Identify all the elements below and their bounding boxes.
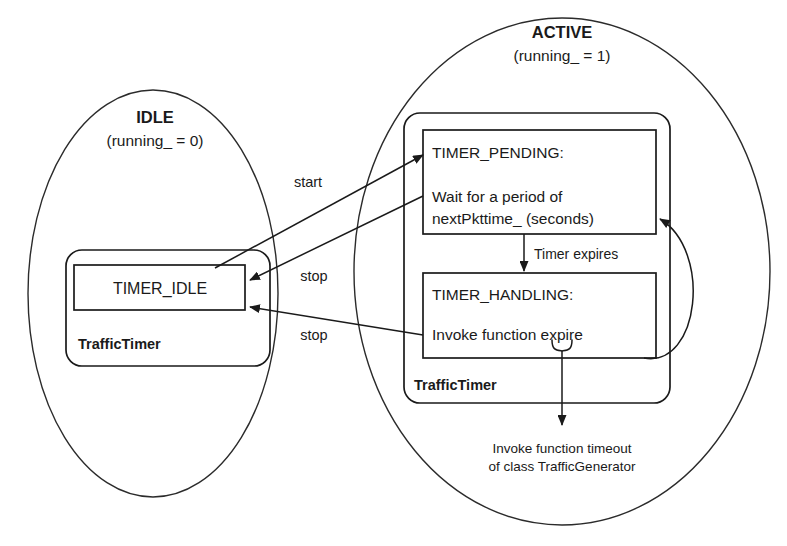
idle-region-title: IDLE: [136, 108, 174, 126]
state-timer-pending-label: TIMER_PENDING:: [432, 144, 564, 161]
state-timer-handling-line1: Invoke function expire: [432, 326, 583, 343]
state-timer-pending-line2: nextPkttime_ (seconds): [432, 210, 594, 227]
callout-line-1: Invoke function timeout: [493, 441, 632, 456]
active-region-title: ACTIVE: [532, 23, 593, 41]
active-class-label: TrafficTimer: [414, 377, 497, 393]
callout-line-2: of class TrafficGenerator: [489, 459, 636, 474]
idle-class-label: TrafficTimer: [78, 336, 161, 352]
state-timer-handling-label: TIMER_HANDLING:: [432, 286, 573, 303]
idle-region-subtitle: (running_ = 0): [107, 132, 204, 149]
state-timer-pending-line1: Wait for a period of: [432, 188, 563, 205]
diagram-canvas: IDLE (running_ = 0) TIMER_IDLE TrafficTi…: [0, 0, 787, 546]
transition-stop-pending-label: stop: [300, 268, 327, 284]
transition-timer-expires-label: Timer expires: [534, 246, 618, 262]
state-diagram: IDLE (running_ = 0) TIMER_IDLE TrafficTi…: [0, 0, 787, 546]
state-timer-idle-label: TIMER_IDLE: [113, 280, 207, 298]
transition-start-label: start: [294, 174, 322, 190]
active-region-subtitle: (running_ = 1): [514, 47, 611, 64]
transition-stop-pending-arrow: [250, 196, 423, 280]
transition-stop-handling-label: stop: [300, 327, 327, 343]
